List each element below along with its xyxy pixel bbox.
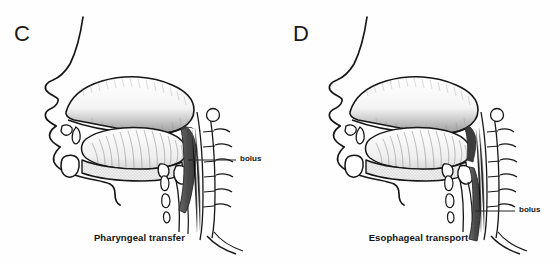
- swallowing-phases-figure: C: [0, 0, 559, 263]
- panel-d-caption: Esophageal transport: [279, 232, 558, 243]
- panel-c-anatomy-drawing: [0, 0, 279, 263]
- bolus-label-c: bolus: [240, 154, 261, 163]
- panel-d-anatomy-drawing: [279, 0, 558, 263]
- panel-c-caption: Pharyngeal transfer: [0, 232, 279, 243]
- panel-d: D: [279, 0, 558, 263]
- panel-c: C: [0, 0, 279, 263]
- bolus-label-d: bolus: [519, 205, 540, 214]
